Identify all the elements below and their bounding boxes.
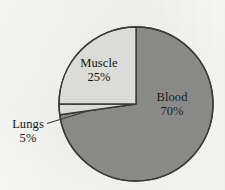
slice-label-lungs-value: 5% xyxy=(2,131,54,145)
slice-label-lungs: Lungs 5% xyxy=(2,117,54,145)
slice-label-muscle-name: Muscle xyxy=(62,56,136,70)
slice-label-blood-value: 70% xyxy=(142,104,202,118)
pie-chart-figure: Muscle 25% Blood 70% Lungs 5% xyxy=(0,0,225,190)
slice-label-lungs-name: Lungs xyxy=(2,117,54,131)
slice-label-blood-name: Blood xyxy=(142,90,202,104)
slice-label-muscle: Muscle 25% xyxy=(62,56,136,84)
slice-label-muscle-value: 25% xyxy=(62,70,136,84)
slice-label-blood: Blood 70% xyxy=(142,90,202,118)
